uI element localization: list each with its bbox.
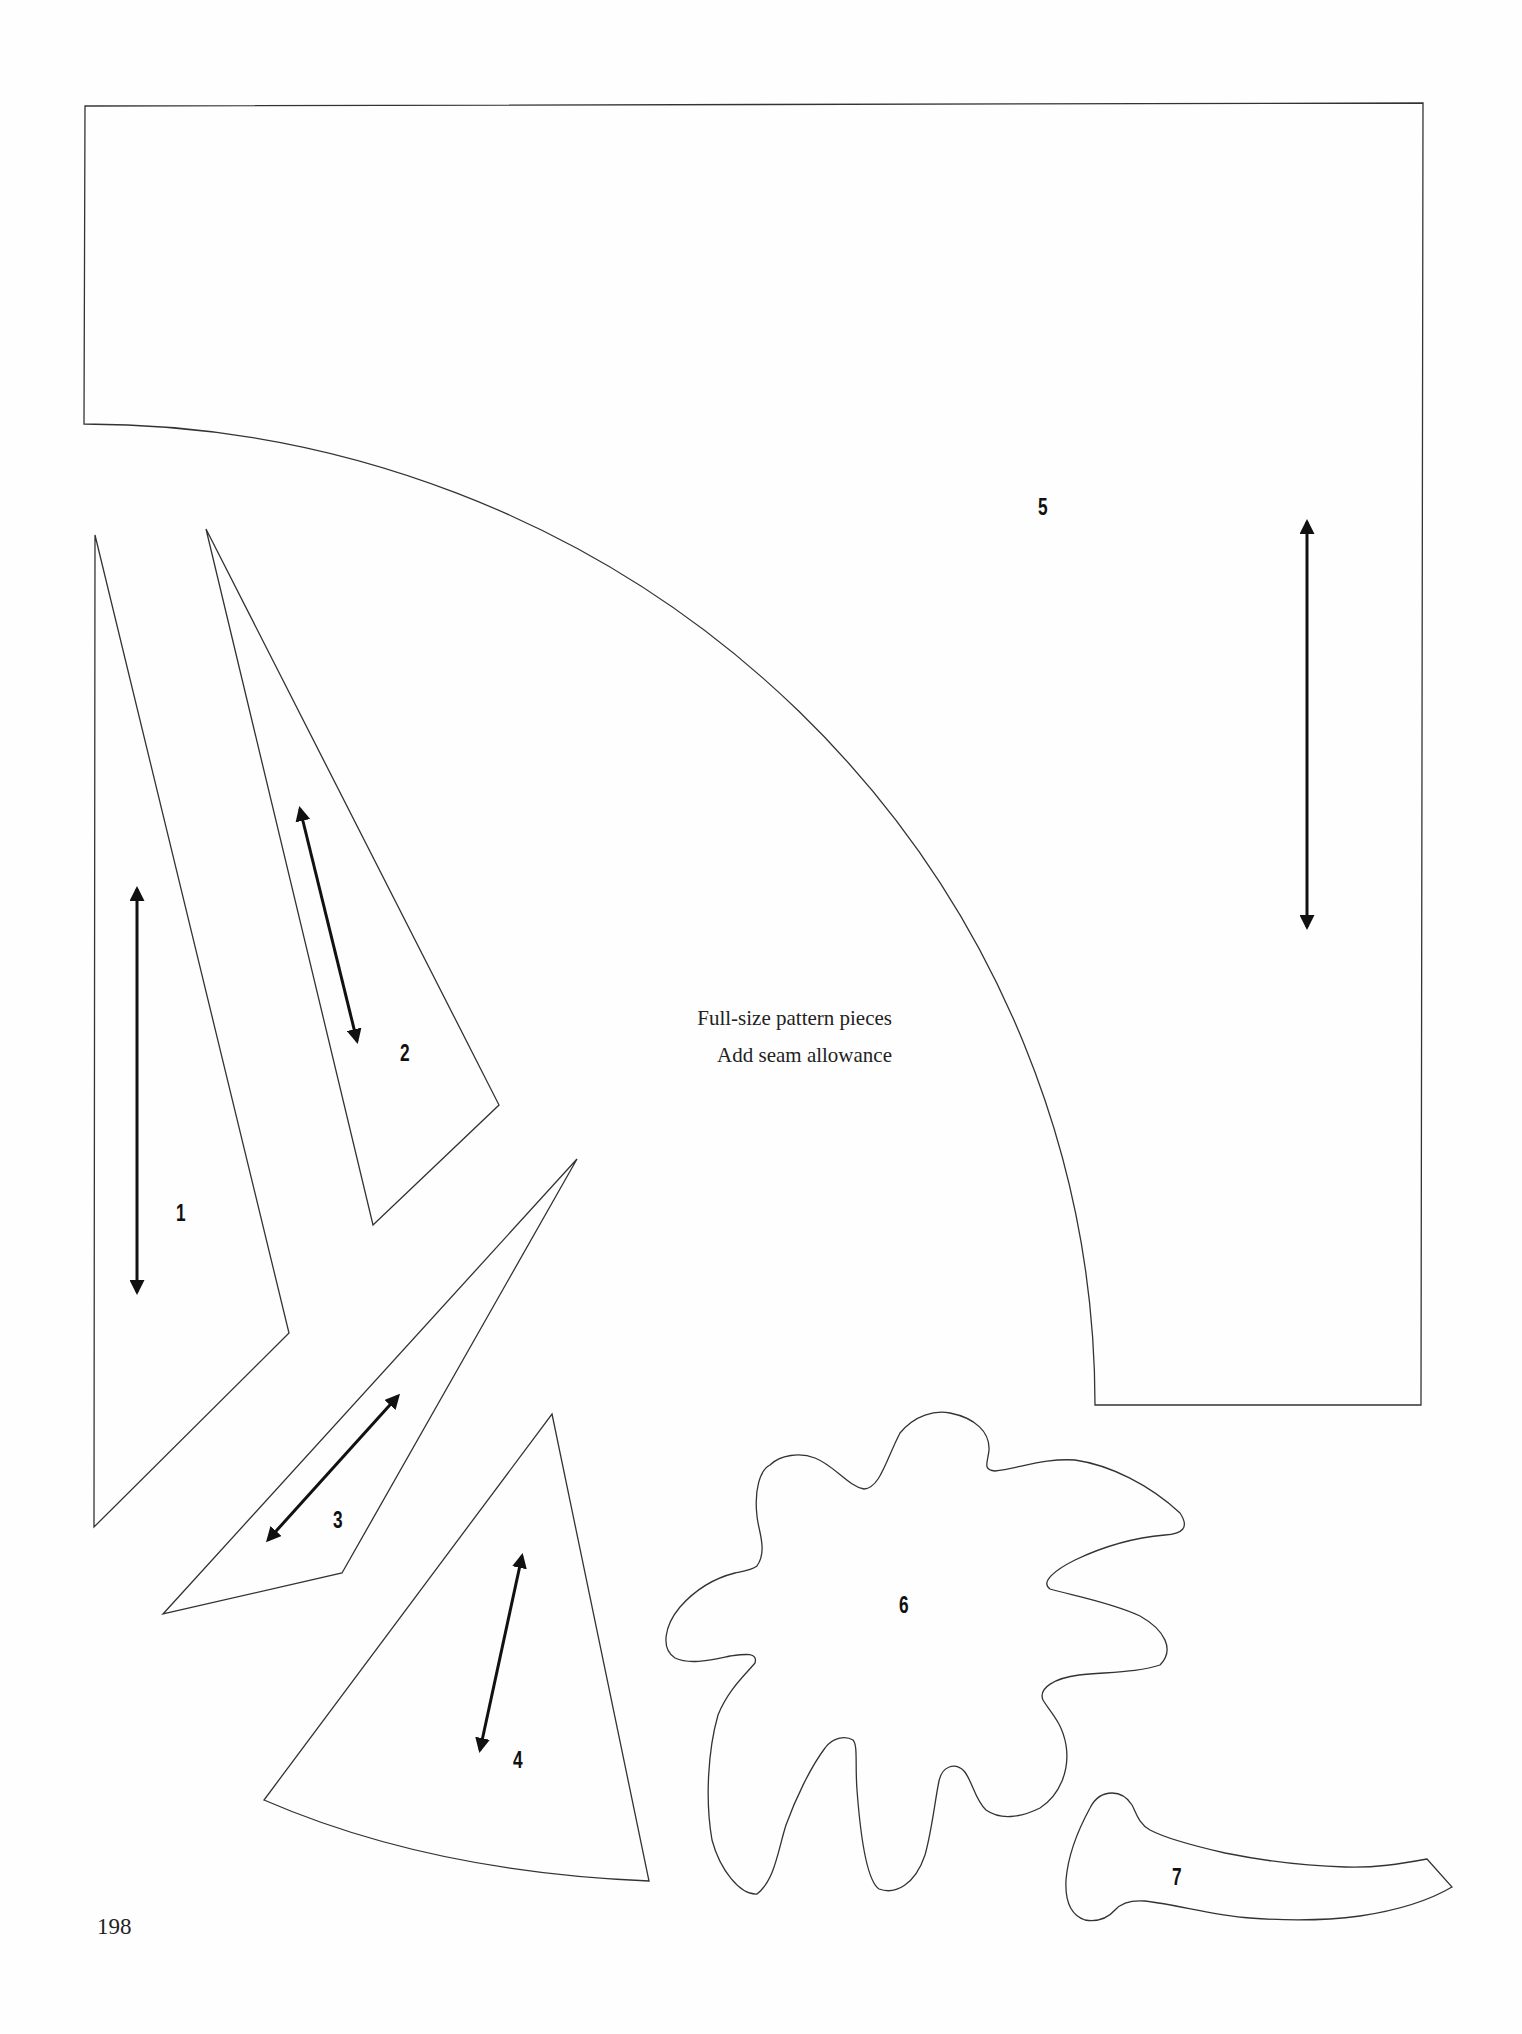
piece-label-2: 2 bbox=[400, 1041, 410, 1065]
pattern-piece-3 bbox=[163, 1159, 577, 1614]
piece-label-1: 1 bbox=[176, 1201, 186, 1225]
pattern-piece-6 bbox=[666, 1412, 1184, 1894]
piece-5-outline bbox=[84, 103, 1423, 1405]
pattern-piece-4 bbox=[264, 1414, 649, 1881]
piece-label-7: 7 bbox=[1172, 1865, 1182, 1889]
pattern-piece-2 bbox=[206, 529, 499, 1225]
grainline-arrow-2 bbox=[300, 809, 357, 1041]
pattern-piece-1 bbox=[94, 535, 289, 1527]
piece-1-outline bbox=[94, 535, 289, 1527]
piece-3-outline bbox=[163, 1159, 577, 1614]
caption-full-size: Full-size pattern pieces bbox=[592, 1008, 892, 1029]
piece-label-4: 4 bbox=[513, 1748, 523, 1772]
page-number: 198 bbox=[97, 1915, 132, 1938]
pattern-piece-5 bbox=[84, 103, 1423, 1405]
grainline-arrow-4 bbox=[480, 1556, 522, 1750]
piece-4-outline bbox=[264, 1414, 649, 1881]
caption-seam-allowance: Add seam allowance bbox=[592, 1045, 892, 1066]
pattern-piece-7 bbox=[1066, 1793, 1452, 1921]
piece-label-5: 5 bbox=[1038, 495, 1048, 519]
piece-7-outline bbox=[1066, 1793, 1452, 1921]
piece-2-outline bbox=[206, 529, 499, 1225]
pattern-page: 1 2 3 4 5 6 7 Full-size pattern pieces A… bbox=[0, 0, 1522, 2034]
piece-label-6: 6 bbox=[899, 1593, 909, 1617]
piece-label-3: 3 bbox=[333, 1508, 343, 1532]
piece-6-outline bbox=[666, 1412, 1184, 1894]
